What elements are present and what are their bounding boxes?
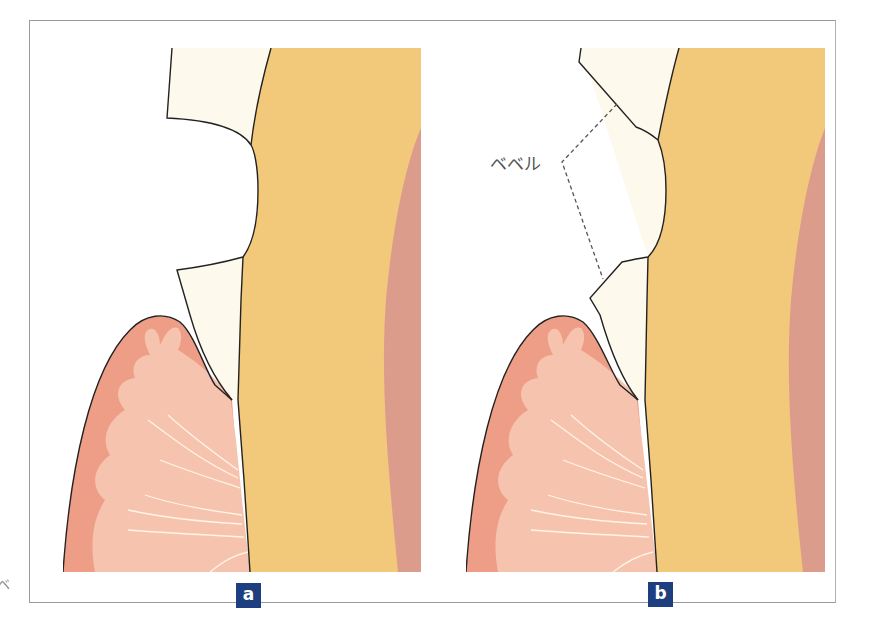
panel-label-a: a [236,583,261,608]
cropped-glyph: ベ [0,574,10,593]
bevel-annotation-label: ベベル [490,150,541,175]
panel-label-b: b [648,582,673,607]
panel-b [466,48,825,572]
dental-diagram [0,0,874,642]
panel-a [63,48,421,572]
